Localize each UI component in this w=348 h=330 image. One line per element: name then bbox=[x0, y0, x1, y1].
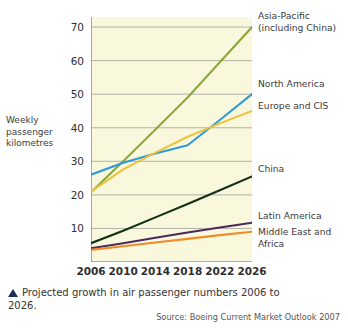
y-tick-label: 40 bbox=[60, 123, 84, 133]
series-label: Europe and CIS bbox=[258, 100, 328, 112]
triangle-marker-icon bbox=[8, 289, 18, 297]
y-tick-label: 10 bbox=[60, 223, 84, 233]
y-tick-label: 60 bbox=[60, 56, 84, 66]
line-chart-svg bbox=[91, 17, 252, 262]
plot-area bbox=[91, 17, 252, 262]
caption-text: Projected growth in air passenger number… bbox=[8, 287, 280, 311]
x-axis-ticks: 200620102014201820222026 bbox=[84, 265, 264, 281]
x-tick-label: 2026 bbox=[237, 265, 267, 277]
x-tick-label: 2022 bbox=[205, 265, 235, 277]
series-label: Asia-Pacific (including China) bbox=[258, 10, 336, 33]
series-label: China bbox=[258, 163, 284, 175]
y-tick-label: 70 bbox=[60, 22, 84, 32]
x-tick-label: 2014 bbox=[140, 265, 170, 277]
x-tick-label: 2006 bbox=[76, 265, 106, 277]
series-label: Middle East and Africa bbox=[258, 226, 331, 249]
figure-caption: Projected growth in air passenger number… bbox=[8, 286, 308, 312]
x-tick-label: 2010 bbox=[108, 265, 138, 277]
y-axis-title: Weekly passenger kilometres bbox=[6, 115, 68, 150]
source-credit: Source: Boeing Current Market Outlook 20… bbox=[156, 312, 340, 322]
y-tick-label: 30 bbox=[60, 156, 84, 166]
series-label: North America bbox=[258, 78, 325, 90]
y-tick-label: 20 bbox=[60, 190, 84, 200]
x-tick-label: 2018 bbox=[173, 265, 203, 277]
series-label: Latin America bbox=[258, 210, 322, 222]
chart-figure: Weekly passenger kilometres 102030405060… bbox=[0, 0, 348, 330]
y-tick-label: 50 bbox=[60, 89, 84, 99]
